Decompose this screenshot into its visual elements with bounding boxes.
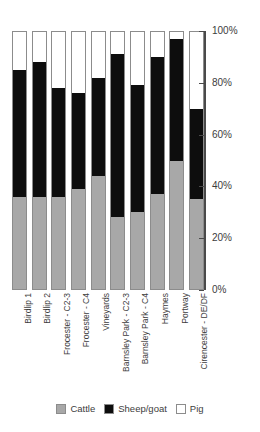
- bar-segment-pig: [32, 31, 47, 62]
- x-label-slot: Birdlip 2: [32, 293, 47, 393]
- legend-item: Sheep/goat: [104, 404, 167, 414]
- y-tick-mark: [199, 238, 204, 239]
- bar-segment-cattle: [91, 176, 106, 290]
- legend-label: Pig: [190, 404, 204, 414]
- bar-segment-pig: [189, 31, 204, 109]
- bars-layer: [12, 31, 204, 290]
- y-tick-mark: [199, 290, 204, 291]
- y-tick-mark: [199, 83, 204, 84]
- y-tick-label: 100%: [212, 26, 238, 36]
- bar-column: [110, 31, 125, 290]
- bar-segment-sheep-goat: [169, 39, 184, 161]
- bar-segment-sheep-goat: [130, 85, 145, 212]
- bar-column: [71, 31, 86, 290]
- bar-segment-pig: [12, 31, 27, 70]
- bar-segment-sheep-goat: [51, 88, 66, 197]
- bar-column: [150, 31, 165, 290]
- y-tick-mark: [199, 135, 204, 136]
- bar-segment-cattle: [130, 212, 145, 290]
- bar-segment-sheep-goat: [12, 70, 27, 197]
- bar-segment-cattle: [169, 161, 184, 291]
- bar-column: [91, 31, 106, 290]
- bar-segment-pig: [51, 31, 66, 88]
- chart-legend: CattleSheep/goatPig: [0, 404, 260, 414]
- x-label-slot: Portway: [169, 293, 184, 393]
- legend-item: Cattle: [56, 404, 95, 414]
- cattle-swatch: [56, 404, 66, 414]
- bar-segment-cattle: [150, 194, 165, 290]
- x-label-slot: Haymes: [150, 293, 165, 393]
- x-label-slot: Birdlip 1: [12, 293, 27, 393]
- x-label-slot: Frocester - C4: [71, 293, 86, 393]
- stacked-bar-chart: 0%20%40%60%80%100% Birdlip 1Birdlip 2Fro…: [0, 0, 260, 432]
- x-label-slot: Frocester - C2-3: [51, 293, 66, 393]
- x-label-slot: Cirencester - DE/DF: [189, 293, 204, 393]
- bar-segment-pig: [130, 31, 145, 85]
- bar-column: [12, 31, 27, 290]
- y-tick-mark: [199, 31, 204, 32]
- bar-segment-cattle: [51, 197, 66, 290]
- y-tick-mark: [199, 186, 204, 187]
- bar-segment-sheep-goat: [91, 78, 106, 176]
- bar-segment-pig: [71, 31, 86, 93]
- legend-label: Sheep/goat: [118, 404, 167, 414]
- y-axis: [204, 31, 206, 290]
- y-tick-label: 0%: [212, 285, 226, 295]
- x-axis-labels: Birdlip 1Birdlip 2Frocester - C2-3Froces…: [12, 293, 204, 393]
- y-tick-label: 60%: [212, 130, 232, 140]
- bar-column: [130, 31, 145, 290]
- pig-swatch: [176, 404, 186, 414]
- bar-segment-cattle: [110, 217, 125, 290]
- bar-segment-pig: [150, 31, 165, 57]
- sheep-goat-swatch: [104, 404, 114, 414]
- x-label-slot: Vineyards: [91, 293, 106, 393]
- bar-segment-sheep-goat: [110, 54, 125, 217]
- bar-segment-pig: [91, 31, 106, 78]
- x-label-slot: Barnsley Park - C4: [130, 293, 145, 393]
- bar-segment-cattle: [32, 197, 47, 290]
- bar-column: [32, 31, 47, 290]
- bar-segment-sheep-goat: [32, 62, 47, 197]
- plot-area: [12, 31, 204, 290]
- bar-segment-sheep-goat: [71, 93, 86, 189]
- x-axis-label: Cirencester - DE/DF: [200, 293, 209, 370]
- bar-segment-cattle: [71, 189, 86, 290]
- bar-segment-sheep-goat: [150, 57, 165, 194]
- y-tick-label: 40%: [212, 181, 232, 191]
- bar-segment-pig: [110, 31, 125, 54]
- bar-segment-cattle: [12, 197, 27, 290]
- bar-segment-cattle: [189, 199, 204, 290]
- y-tick-label: 20%: [212, 233, 232, 243]
- x-label-slot: Barnsley Park - C2-3: [110, 293, 125, 393]
- y-tick-label: 80%: [212, 78, 232, 88]
- legend-item: Pig: [176, 404, 204, 414]
- bar-column: [169, 31, 184, 290]
- bar-column: [51, 31, 66, 290]
- legend-label: Cattle: [70, 404, 95, 414]
- bar-segment-pig: [169, 31, 184, 39]
- bar-column: [189, 31, 204, 290]
